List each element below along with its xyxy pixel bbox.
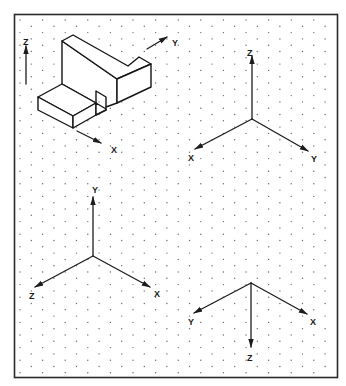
- isometric-sheet: ZYX ZXYYZXYXZ: [0, 0, 346, 386]
- triad-label-y: Y: [188, 317, 194, 327]
- triad-label-x: X: [310, 317, 316, 327]
- triad-label-z: Z: [247, 353, 253, 363]
- triad-label-z: Z: [29, 291, 35, 301]
- triad-bottom-left: YZX: [29, 185, 160, 301]
- triad-label-y: Y: [311, 154, 317, 164]
- axis-label-z: Z: [23, 37, 29, 47]
- isometric-object: [38, 35, 151, 128]
- axis-label-x: X: [111, 145, 117, 155]
- triad-axis-x: [251, 283, 307, 314]
- triad-axis-y: [194, 283, 251, 313]
- triad-label-z: Z: [247, 48, 253, 58]
- axis-arrow-y: [147, 37, 167, 49]
- triad-axis-x: [195, 119, 252, 149]
- triad-label-y: Y: [92, 185, 98, 195]
- axis-arrow-x: [77, 131, 101, 143]
- triad-axis-z: [35, 256, 93, 287]
- triad-bottom-right: YXZ: [188, 283, 316, 363]
- triad-label-x: X: [154, 289, 160, 299]
- triad-top-right: ZXY: [188, 48, 317, 164]
- triad-axis-y: [252, 119, 308, 151]
- triad-axis-x: [93, 256, 150, 287]
- axis-label-y: Y: [172, 38, 178, 48]
- triad-label-x: X: [188, 153, 194, 163]
